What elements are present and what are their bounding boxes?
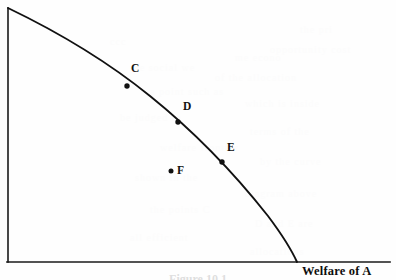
point-dot-F — [169, 169, 174, 174]
point-label-E: E — [227, 142, 235, 154]
point-label-D: D — [183, 101, 191, 113]
point-label-F: F — [177, 165, 184, 177]
figure-caption: Figure 10.1 — [0, 272, 396, 280]
point-dot-E — [219, 159, 224, 164]
welfare-frontier-figure: the pricccopportunity costme econothe so… — [0, 0, 396, 280]
point-label-C: C — [131, 63, 139, 75]
welfare-frontier-curve — [8, 8, 297, 262]
point-dot-D — [175, 119, 180, 124]
point-dot-C — [124, 83, 129, 88]
welfare-frontier-plot — [0, 0, 396, 280]
